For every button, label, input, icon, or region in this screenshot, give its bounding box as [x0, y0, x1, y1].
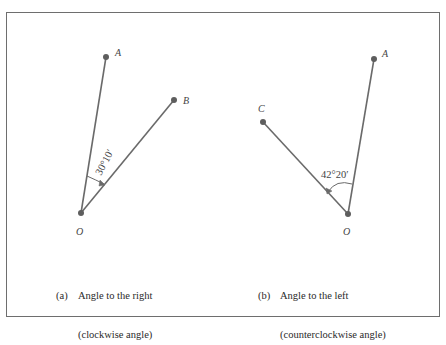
ray-OB-a [81, 100, 174, 213]
label-B-a: B [183, 95, 189, 106]
label-O-a: O [76, 226, 83, 237]
diagram-a [81, 57, 174, 213]
ray-OA-b [348, 59, 374, 214]
angle-label-b: 42°20′ [321, 169, 349, 180]
caption-tag-b: (b) [258, 289, 280, 302]
point-A-a [103, 54, 109, 60]
caption-a: (a)Angle to the right (clockwise angle) [56, 263, 152, 345]
caption-b-line2: (counterclockwise angle) [258, 328, 386, 341]
point-O-a [78, 210, 84, 216]
diagram-b [263, 59, 374, 214]
caption-b: (b)Angle to the left (counterclockwise a… [258, 263, 386, 345]
label-C-b: C [258, 103, 265, 114]
label-A-b: A [381, 48, 389, 59]
point-B-a [171, 97, 177, 103]
ray-OC-b [263, 122, 348, 214]
arrowhead-a [99, 180, 105, 186]
caption-a-line1: Angle to the right [78, 290, 152, 301]
label-O-b: O [343, 226, 350, 237]
caption-a-line2: (clockwise angle) [56, 328, 152, 341]
point-C-b [260, 119, 266, 125]
label-A-a: A [114, 47, 122, 58]
angle-label-a: 30°10′ [93, 147, 116, 176]
caption-b-line1: Angle to the left [280, 290, 349, 301]
caption-tag-a: (a) [56, 289, 78, 302]
point-A-b [371, 56, 377, 62]
point-O-b [345, 211, 351, 217]
ray-OA-a [81, 57, 106, 213]
